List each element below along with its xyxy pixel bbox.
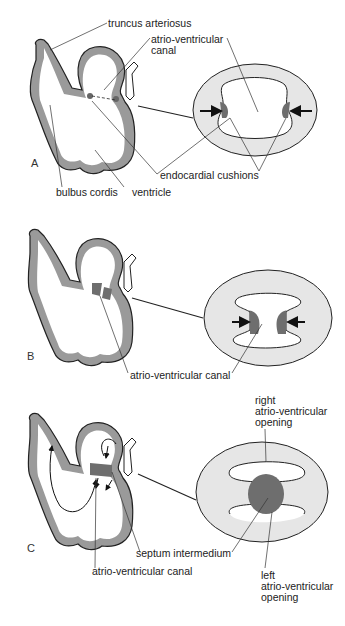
panel-letter-c: C [27,542,35,554]
panel-letter-a: A [31,157,38,169]
panel-a-heart [30,39,138,173]
label-left-av-opening-3: opening [261,592,298,603]
panel-c-heart [28,413,136,549]
panel-b-heart [28,229,136,365]
label-ventricle: ventricle [132,187,171,198]
panel-c-cross-section [138,442,328,542]
label-atrio-ventricular-canal-c: atrio-ventricular canal [92,566,192,577]
label-bulbus-cordis: bulbus cordis [56,187,118,198]
heart-diagram [0,0,345,626]
label-endocardial-cushions: endocardial cushions [160,170,259,181]
label-septum-intermedium: septum intermedium [136,548,231,559]
label-right-av-opening-3: opening [255,417,292,428]
panel-b-cross-section [132,270,332,366]
label-atrio-ventricular-canal-b: atrio-ventricular canal [130,370,230,381]
panel-letter-b: B [27,350,34,362]
label-atrio-ventricular-canal-a-2: canal [151,45,176,56]
label-truncus-arteriosus: truncus arteriosus [108,18,191,29]
panel-a-cross-section [138,64,317,156]
